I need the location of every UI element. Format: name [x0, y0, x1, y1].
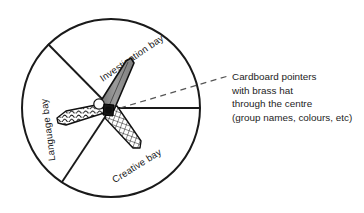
- callout-text-block: Cardboard pointers with brass hat throug…: [231, 71, 352, 123]
- diagram-canvas: Investigation bay Language bay Creative …: [0, 0, 364, 213]
- callout-line-3: through the centre: [232, 98, 313, 109]
- hub-cap: [105, 107, 112, 114]
- wheel-diagram: Investigation bay Language bay Creative …: [0, 0, 364, 213]
- pointer-washer: [94, 99, 104, 109]
- brass-hat-centre-hub[interactable]: [103, 104, 114, 116]
- callout-line-4: (group names, colours, etc): [232, 112, 352, 123]
- callout-line-2: with brass hat: [231, 85, 293, 96]
- callout-line-1: Cardboard pointers: [232, 71, 317, 82]
